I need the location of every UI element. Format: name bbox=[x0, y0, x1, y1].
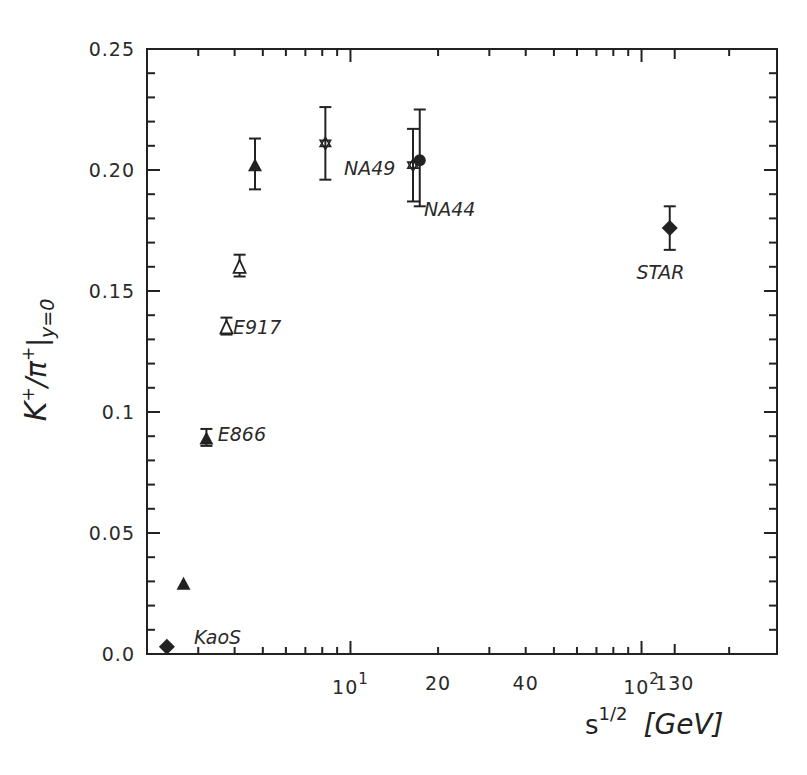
series-label-star: STAR bbox=[636, 261, 684, 283]
triangle-marker-icon bbox=[248, 158, 262, 171]
svg-text:K+/π+|y=0: K+/π+|y=0 bbox=[18, 299, 58, 422]
x-axis-title: s1/2[GeV] bbox=[585, 703, 723, 741]
data-point-e866 bbox=[199, 429, 213, 446]
y-axis-title: K+/π+|y=0 bbox=[18, 299, 58, 422]
data-point-e917 bbox=[220, 318, 232, 335]
y-tick-label: 0.20 bbox=[89, 159, 135, 181]
data-point-star bbox=[662, 206, 678, 250]
y-tick-label: 0.0 bbox=[102, 643, 135, 665]
data-points bbox=[159, 107, 678, 655]
y-tick-label: 0.25 bbox=[89, 38, 135, 60]
axis-ticks bbox=[147, 49, 777, 654]
data-point-na44 bbox=[414, 110, 426, 207]
y-tick-label: 0.1 bbox=[102, 401, 135, 423]
open-triangle-marker-icon bbox=[234, 260, 246, 273]
y-tick-label: 0.15 bbox=[89, 280, 135, 302]
series-label-e866: E866 bbox=[218, 423, 266, 445]
circle-marker-icon bbox=[414, 154, 426, 166]
series-labels: KaoSE866E917NA49NA44STAR bbox=[194, 157, 685, 648]
triangle-marker-icon bbox=[177, 577, 191, 590]
series-label-na44: NA44 bbox=[424, 198, 475, 220]
open-triangle-marker-icon bbox=[220, 320, 232, 333]
data-point-na49 bbox=[319, 107, 331, 180]
plot-frame bbox=[147, 49, 777, 654]
data-point-e866 bbox=[248, 139, 262, 190]
data-point-e917 bbox=[234, 255, 246, 277]
y-tick-label: 0.05 bbox=[89, 522, 135, 544]
data-point-e866 bbox=[177, 577, 191, 590]
series-label-na49: NA49 bbox=[344, 157, 395, 179]
data-point-kaos bbox=[159, 639, 175, 655]
axis-tick-labels: 0.00.050.10.150.200.251012040102130 bbox=[89, 38, 695, 698]
chart-canvas: 0.00.050.10.150.200.251012040102130 KaoS… bbox=[0, 0, 807, 775]
diamond-marker-icon bbox=[159, 639, 175, 655]
x-tick-label: 101 bbox=[332, 670, 369, 698]
triangle-marker-icon bbox=[199, 432, 213, 445]
x-tick-label: 20 bbox=[425, 672, 451, 694]
series-label-kaos: KaoS bbox=[194, 626, 241, 648]
x-tick-label: 130 bbox=[655, 672, 694, 694]
x-tick-label: 40 bbox=[513, 672, 539, 694]
diamond-marker-icon bbox=[662, 220, 678, 236]
series-label-e917: E917 bbox=[233, 316, 281, 338]
